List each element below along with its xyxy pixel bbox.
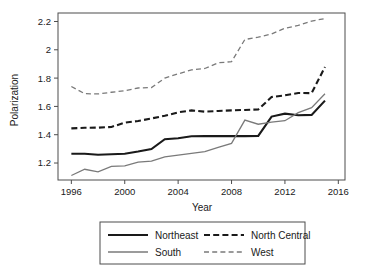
y-tick-label: 2.2 — [38, 16, 51, 27]
chart-legend: NortheastNorth CentralSouthWest — [100, 222, 310, 264]
x-tick-label: 2008 — [221, 186, 242, 197]
x-tick-label: 1996 — [61, 186, 82, 197]
y-tick-label: 1.6 — [38, 101, 51, 112]
x-axis-title: Year — [192, 202, 213, 213]
legend-label-south: South — [155, 247, 181, 258]
x-tick-label: 2004 — [168, 186, 189, 197]
legend-label-northeast: Northeast — [155, 230, 199, 241]
series-line-west — [71, 19, 325, 94]
data-series-group — [71, 19, 325, 176]
y-axis-title: Polarization — [9, 74, 20, 126]
x-tick-label: 2000 — [114, 186, 135, 197]
y-tick-label: 1.4 — [38, 129, 51, 140]
chart-canvas: 1.21.41.61.822.2 19962000200420082012201… — [0, 0, 366, 279]
y-tick-label: 1.8 — [38, 73, 51, 84]
legend-label-west: West — [251, 247, 274, 258]
x-axis-ticks: 199620002004200820122016 — [61, 180, 349, 197]
legend-border — [100, 222, 305, 264]
series-line-south — [71, 94, 325, 176]
y-tick-label: 2 — [46, 44, 51, 55]
x-tick-label: 2012 — [274, 186, 295, 197]
y-tick-label: 1.2 — [38, 157, 51, 168]
x-tick-label: 2016 — [328, 186, 349, 197]
polarization-line-chart: 1.21.41.61.822.2 19962000200420082012201… — [0, 0, 366, 279]
y-axis-ticks: 1.21.41.61.822.2 — [38, 16, 58, 169]
legend-label-north-central: North Central — [251, 230, 310, 241]
